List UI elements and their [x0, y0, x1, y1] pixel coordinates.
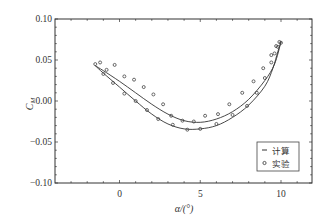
experimental-point: [105, 68, 108, 71]
experimental-point: [263, 77, 266, 80]
y-tick-label: 0.00: [35, 96, 52, 106]
x-tick-label: 10: [276, 189, 286, 199]
experimental-point: [152, 93, 155, 96]
experimental-point: [241, 91, 244, 94]
experimental-points: [94, 40, 283, 131]
x-axis-title: α/(°): [175, 203, 194, 215]
experimental-point: [270, 54, 273, 57]
experimental-point: [270, 61, 273, 64]
experimental-point: [255, 91, 258, 94]
experimental-point: [123, 75, 126, 78]
experimental-point: [204, 114, 207, 117]
experimental-point: [215, 122, 218, 125]
svg-text:CM: CM: [24, 97, 37, 111]
experimental-point: [228, 103, 231, 106]
experimental-point: [262, 67, 265, 70]
legend-label-computed: 计算: [272, 146, 290, 156]
chart: 0510−0.10−0.050.000.050.10 α/(°) CM 计算 实…: [0, 0, 327, 224]
y-tick-label: −0.10: [30, 178, 52, 188]
computed-curve: [95, 42, 281, 129]
x-tick-label: 5: [198, 189, 203, 199]
experimental-point: [142, 86, 145, 89]
legend: 计算 实验: [257, 142, 299, 171]
legend-label-experimental: 实验: [272, 159, 290, 169]
experimental-point: [231, 113, 234, 116]
experimental-point: [99, 61, 102, 64]
experimental-point: [162, 103, 165, 106]
experimental-point: [217, 113, 220, 116]
experimental-point: [252, 80, 255, 83]
experimental-point: [273, 52, 276, 55]
x-tick-label: 0: [117, 189, 122, 199]
y-tick-label: 0.05: [35, 55, 52, 65]
y-tick-label: 0.10: [35, 14, 52, 24]
y-tick-label: −0.05: [30, 137, 52, 147]
computed-upstroke-line: [95, 42, 281, 122]
experimental-point: [94, 63, 97, 66]
experimental-point: [123, 92, 126, 95]
experimental-point: [133, 78, 136, 81]
experimental-point: [113, 63, 116, 66]
computed-downstroke-line: [95, 42, 281, 129]
y-axis-title: CM: [24, 97, 37, 111]
